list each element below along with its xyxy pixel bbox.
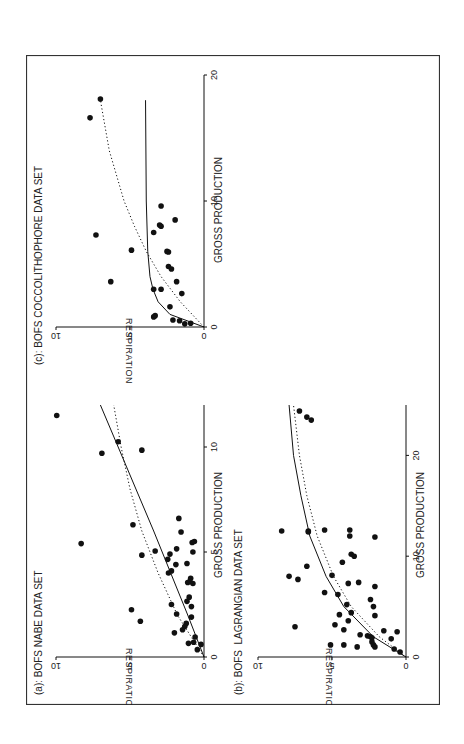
data-point [174,546,180,552]
data-point [348,610,354,616]
y-tick-label: 10 [51,661,61,671]
data-point [78,541,84,547]
data-point [332,622,338,628]
data-point [308,417,314,423]
data-point [167,304,173,310]
data-point [195,647,201,653]
data-point [157,222,163,228]
data-point [178,529,184,535]
data-point [381,628,387,634]
data-point [335,592,341,598]
data-point [397,649,403,655]
data-point [172,217,178,223]
dotted-fit-line [100,100,204,327]
data-point [306,529,312,535]
data-point [189,604,195,610]
data-point [158,203,164,209]
data-point [129,247,135,253]
data-point [372,534,378,540]
data-point [169,266,175,272]
data-point [130,522,136,528]
x-tick-label: 10 [209,442,219,452]
panel-b-xlabel: GROSS PRODUCTION [415,472,426,578]
data-point [184,561,190,567]
data-point [93,232,99,238]
panel-c-xlabel: GROSS PRODUCTION [213,157,224,263]
data-point [152,548,158,554]
data-point [189,614,195,620]
data-point [179,291,185,297]
panel-c: (c): BOFS COCCOLITHOPHORE DATA SET 01020… [33,70,224,384]
data-point [99,451,105,457]
data-point [371,604,377,610]
data-point [129,607,135,613]
data-point [172,630,178,636]
data-point [169,602,175,608]
data-point [329,573,335,579]
panel-c-title: (c): BOFS COCCOLITHOPHORE DATA SET [33,166,44,365]
data-point [279,528,285,534]
data-point [192,539,198,545]
panel-b: (b): BOFS LAGRANGIAN DATA SET 010200510 … [233,405,426,705]
data-point [165,557,171,563]
data-point [158,286,164,292]
x-tick-label: 20 [209,70,219,80]
data-point [391,646,397,652]
data-point [190,549,196,555]
data-point [292,624,298,630]
panel-b-plot: 010200510 [253,405,421,671]
data-point [341,627,347,633]
data-point [198,642,204,648]
data-point [356,580,362,586]
data-point [170,317,176,323]
panel-b-title: (b): BOFS LAGRANGIAN DATA SET [233,529,244,695]
panel-a-ylabel: RESPIRATION [124,648,134,705]
data-point [345,581,351,587]
data-point [344,602,350,608]
data-point [98,96,104,102]
x-tick-label: 0 [209,324,219,329]
data-point [341,642,347,648]
data-point [304,563,310,569]
data-point [192,634,198,640]
data-point [184,599,190,605]
data-point [54,413,60,419]
data-point [297,408,303,414]
data-point [152,313,158,319]
data-point [345,618,351,624]
panel-a-plot: 05100510 [51,405,219,671]
data-point [368,597,374,603]
data-point [351,553,357,559]
panel-a-title: (a): BOFS NABE DATA SET [33,570,44,695]
y-tick-label: 0 [201,661,206,671]
data-point [115,439,121,445]
data-point [190,581,196,587]
data-point [138,619,144,625]
page: (a): BOFS NABE DATA SET 05100510 GROSS P… [0,0,464,744]
data-point [151,286,157,292]
solid-fit-line [146,100,204,327]
data-point [322,590,328,596]
data-point [173,562,179,568]
rotated-figure: (a): BOFS NABE DATA SET 05100510 GROSS P… [26,55,440,705]
data-point [176,516,182,522]
data-point [108,279,114,285]
data-point [167,551,173,557]
y-tick-label: 10 [51,331,61,341]
data-point [337,612,343,618]
data-point [174,611,180,617]
data-point [166,249,172,255]
data-point [347,527,353,533]
y-tick-label: 0 [403,661,408,671]
y-tick-label: 0 [201,331,206,341]
data-point [372,584,378,590]
panel-a: (a): BOFS NABE DATA SET 05100510 GROSS P… [33,405,224,705]
data-point [388,636,394,642]
panel-b-ylabel: RESPIRATION [324,648,334,705]
data-point [180,627,186,633]
data-point [182,321,188,327]
data-point [139,447,145,453]
data-point [87,115,93,121]
data-point [186,641,192,647]
data-point [139,552,145,558]
